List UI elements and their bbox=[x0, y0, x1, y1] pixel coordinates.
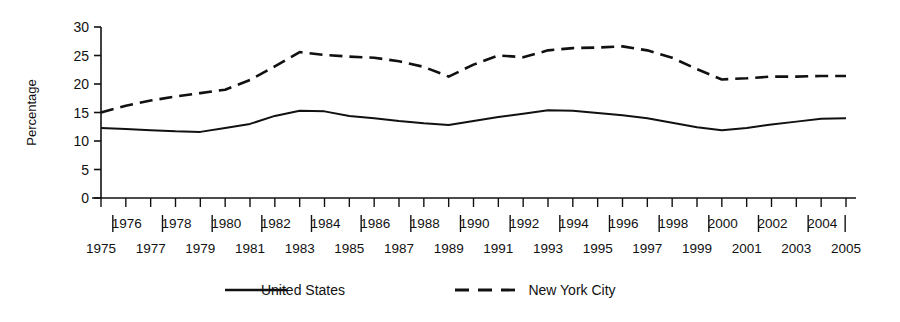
y-axis-title: Percentage bbox=[24, 79, 39, 146]
x-tick-label-lower: 2003 bbox=[781, 241, 811, 256]
y-axis: 051015202530Percentage bbox=[24, 19, 101, 206]
series-line-1 bbox=[101, 110, 846, 132]
x-tick-label-lower: 1989 bbox=[434, 241, 464, 256]
x-tick-label-upper: 1990 bbox=[459, 216, 489, 231]
x-tick-label-upper: 1982 bbox=[261, 216, 291, 231]
x-tick-label-upper: 1988 bbox=[410, 216, 440, 231]
chart-legend: United StatesNew York City bbox=[225, 282, 616, 298]
x-tick-label-upper: 1986 bbox=[360, 216, 390, 231]
y-tick-label: 0 bbox=[81, 190, 89, 206]
chart-canvas: 051015202530Percentage197619781980198219… bbox=[0, 0, 900, 322]
legend-label: New York City bbox=[528, 282, 615, 298]
x-tick-label-lower: 1981 bbox=[235, 241, 265, 256]
legend-label: United States bbox=[261, 282, 345, 298]
legend-item-1: United States bbox=[225, 282, 345, 298]
x-tick-label-upper: 2002 bbox=[757, 216, 787, 231]
line-chart: 051015202530Percentage197619781980198219… bbox=[0, 0, 900, 322]
y-tick-label: 30 bbox=[73, 19, 89, 35]
data-series-group bbox=[101, 46, 846, 132]
x-tick-label-lower: 1977 bbox=[136, 241, 166, 256]
x-tick-label-upper: 1992 bbox=[509, 216, 539, 231]
x-tick-label-upper: 2004 bbox=[807, 216, 838, 231]
x-tick-label-lower: 2005 bbox=[831, 241, 861, 256]
x-tick-label-upper: 1978 bbox=[161, 216, 191, 231]
x-tick-label-lower: 1991 bbox=[483, 241, 513, 256]
legend-item-2: New York City bbox=[455, 282, 616, 298]
x-tick-label-lower: 1975 bbox=[86, 241, 116, 256]
x-tick-label-lower: 2001 bbox=[732, 241, 762, 256]
x-axis: 1976197819801982198419861988199019921994… bbox=[86, 198, 861, 256]
x-tick-label-upper: 1976 bbox=[112, 216, 142, 231]
x-tick-label-upper: 1994 bbox=[559, 216, 590, 231]
x-tick-label-upper: 2000 bbox=[708, 216, 738, 231]
y-tick-label: 5 bbox=[81, 162, 89, 178]
x-tick-label-lower: 1987 bbox=[384, 241, 414, 256]
x-tick-label-lower: 1997 bbox=[632, 241, 662, 256]
y-tick-label: 10 bbox=[73, 133, 89, 149]
y-tick-label: 20 bbox=[73, 76, 89, 92]
x-tick-label-lower: 1983 bbox=[285, 241, 315, 256]
y-tick-label: 15 bbox=[73, 105, 89, 121]
x-tick-label-lower: 1985 bbox=[334, 241, 364, 256]
x-tick-label-upper: 1984 bbox=[310, 216, 341, 231]
x-tick-label-lower: 1993 bbox=[533, 241, 563, 256]
y-tick-label: 25 bbox=[73, 48, 89, 64]
x-tick-label-upper: 1996 bbox=[608, 216, 638, 231]
x-tick-label-lower: 1995 bbox=[583, 241, 613, 256]
x-tick-label-upper: 1998 bbox=[658, 216, 688, 231]
x-tick-label-lower: 1979 bbox=[185, 241, 215, 256]
series-line-2 bbox=[101, 46, 846, 112]
x-tick-label-upper: 1980 bbox=[211, 216, 241, 231]
x-tick-label-lower: 1999 bbox=[682, 241, 712, 256]
